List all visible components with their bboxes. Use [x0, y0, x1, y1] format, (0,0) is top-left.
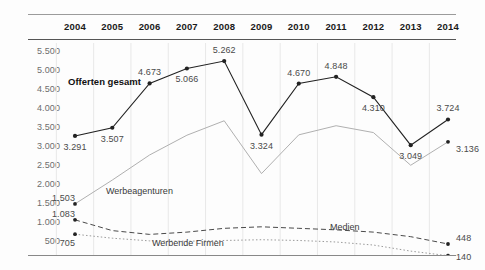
year-header-2011: 2011 — [318, 21, 354, 32]
data-point-marker — [73, 134, 77, 138]
year-header-2009: 2009 — [244, 21, 280, 32]
series-layer — [73, 59, 450, 255]
data-point-marker — [334, 75, 338, 79]
data-label-offerten-2005: 3.507 — [98, 134, 126, 144]
data-label-werbendefirmen-2004: 705 — [47, 238, 75, 248]
year-header-2006: 2006 — [132, 21, 168, 32]
series-annotation-medien: Medien — [330, 222, 360, 232]
data-point-marker — [148, 81, 152, 85]
year-header-2013: 2013 — [393, 21, 429, 32]
year-header-2008: 2008 — [206, 21, 242, 32]
series-annotation-offerten-gesamt: Offerten gesamt — [68, 76, 141, 87]
data-point-marker — [446, 140, 450, 144]
year-header-2004: 2004 — [57, 21, 93, 32]
data-label-offerten-2011: 4.848 — [322, 61, 350, 71]
data-point-marker — [446, 242, 450, 246]
data-point-marker — [222, 59, 226, 63]
data-label-offerten-2009: 3.324 — [248, 141, 276, 151]
data-point-marker — [446, 117, 450, 121]
year-header-2014: 2014 — [430, 21, 466, 32]
data-label-offerten-2004: 3.291 — [61, 142, 89, 152]
data-point-marker — [185, 66, 189, 70]
data-point-marker — [446, 254, 450, 255]
data-label-medien-2004: 1.083 — [47, 209, 75, 219]
data-point-marker — [409, 143, 413, 147]
data-label-offerten-2007: 5.066 — [173, 74, 201, 84]
year-header-2012: 2012 — [355, 21, 391, 32]
header-rule-top — [28, 14, 456, 15]
data-label-offerten-2012: 4.310 — [359, 103, 387, 113]
data-point-marker — [259, 133, 263, 137]
data-label-offerten-2008: 5.262 — [210, 45, 238, 55]
vertical-gridlines — [56, 43, 429, 255]
data-label-werbendefirmen-2014: 140 — [456, 252, 471, 262]
data-label-werbeagenturen-2014: 3.136 — [456, 144, 479, 154]
year-header-2005: 2005 — [94, 21, 130, 32]
footer-rule — [28, 255, 456, 256]
year-header-2010: 2010 — [281, 21, 317, 32]
data-label-offerten-2010: 4.670 — [285, 68, 313, 78]
series-annotation-werbeagenturen: Werbeagenturen — [106, 186, 173, 196]
data-label-offerten-2013: 3.049 — [397, 151, 425, 161]
series-annotation-werbende-firmen: Werbende Firmen — [152, 238, 224, 248]
data-label-werbeagenturen-2004: 1.503 — [47, 193, 75, 203]
data-point-marker — [297, 81, 301, 85]
year-header-2007: 2007 — [169, 21, 205, 32]
data-point-marker — [371, 95, 375, 99]
data-point-marker — [110, 126, 114, 130]
data-point-marker — [73, 232, 77, 236]
chart-container: 2004200520062007200820092010201120122013… — [0, 0, 485, 270]
data-label-offerten-2014: 3.724 — [434, 103, 462, 113]
data-label-medien-2014: 448 — [456, 233, 471, 243]
